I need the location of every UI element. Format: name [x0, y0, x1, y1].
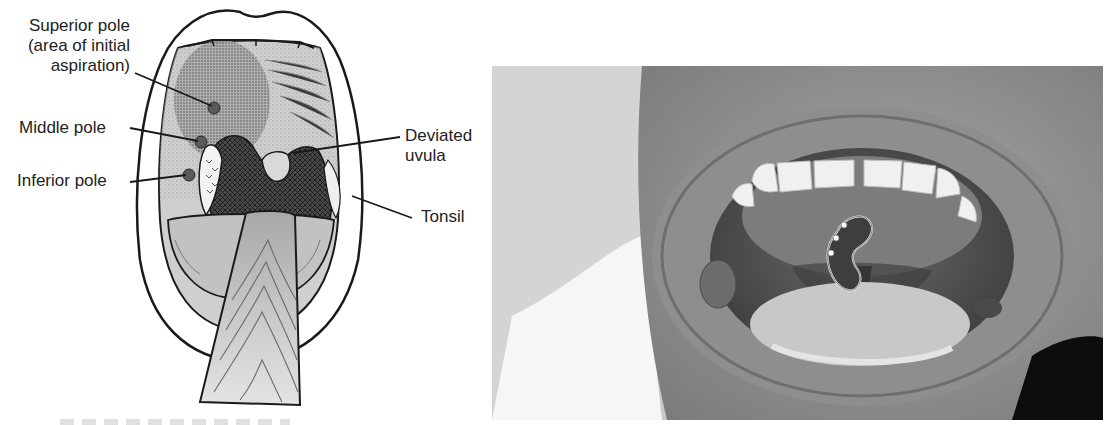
label-superior-pole-line2: (area of initial	[18, 36, 130, 56]
superior-pole-marker	[208, 102, 220, 114]
middle-pole-marker	[195, 136, 207, 148]
aspiration-point-3	[828, 250, 834, 256]
right-lesion	[974, 298, 1002, 318]
cropped-caption	[60, 419, 290, 425]
label-superior-pole-line3: aspiration)	[18, 56, 130, 76]
label-deviated-uvula: Deviated uvula	[405, 126, 472, 166]
figure: Superior pole (area of initial aspiratio…	[0, 0, 1111, 425]
aspiration-point-1	[841, 222, 847, 228]
label-tonsil: Tonsil	[421, 207, 464, 227]
label-deviated-uvula-line1: Deviated	[405, 126, 472, 146]
left-lesion	[700, 260, 736, 308]
open-mouth-photo	[492, 66, 1103, 420]
label-superior-pole-line1: Superior pole	[18, 16, 130, 36]
label-middle-pole: Middle pole	[19, 118, 106, 138]
label-inferior-pole: Inferior pole	[17, 171, 107, 191]
anatomical-drawing: Superior pole (area of initial aspiratio…	[0, 0, 490, 425]
label-superior-pole: Superior pole (area of initial aspiratio…	[18, 16, 130, 76]
label-deviated-uvula-line2: uvula	[405, 146, 472, 166]
clinical-photograph	[492, 66, 1103, 420]
aspiration-point-2	[833, 235, 839, 241]
